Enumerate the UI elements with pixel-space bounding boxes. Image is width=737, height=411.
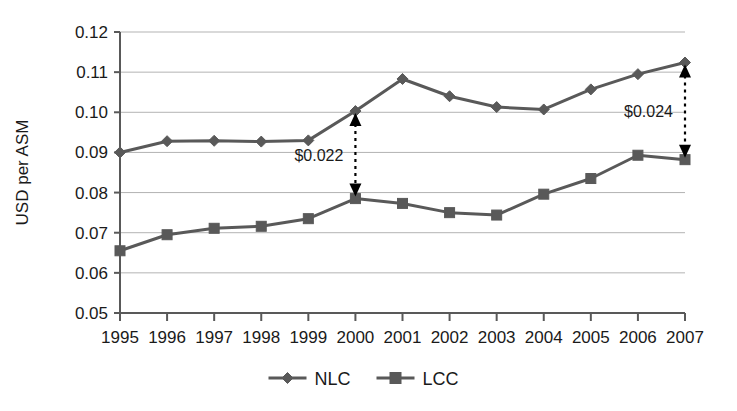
data-point-square-icon bbox=[633, 150, 643, 160]
annotation-label: $0.024 bbox=[624, 103, 673, 120]
legend-label: NLC bbox=[315, 369, 351, 389]
x-tick-label: 2006 bbox=[619, 328, 657, 347]
y-tick-label: 0.09 bbox=[75, 143, 108, 162]
data-point-diamond-icon bbox=[632, 69, 643, 80]
x-tick-label: 1996 bbox=[148, 328, 186, 347]
y-tick-label: 0.12 bbox=[75, 23, 108, 42]
x-tick-label: 2007 bbox=[666, 328, 704, 347]
annotation-label: $0.022 bbox=[294, 147, 343, 164]
data-point-square-icon bbox=[209, 223, 219, 233]
x-tick-label: 1998 bbox=[242, 328, 280, 347]
y-tick-label: 0.07 bbox=[75, 224, 108, 243]
legend-item-lcc[interactable]: LCC bbox=[377, 369, 459, 389]
data-point-diamond-icon bbox=[444, 91, 455, 102]
y-tick-label: 0.05 bbox=[75, 304, 108, 323]
data-point-diamond-icon bbox=[162, 136, 173, 147]
data-point-square-icon bbox=[115, 246, 125, 256]
y-tick-label: 0.08 bbox=[75, 184, 108, 203]
legend: NLCLCC bbox=[269, 369, 459, 389]
data-point-diamond-icon bbox=[209, 135, 220, 146]
x-tick-label: 2005 bbox=[572, 328, 610, 347]
data-point-square-icon bbox=[445, 208, 455, 218]
x-tick-label: 2004 bbox=[525, 328, 563, 347]
data-point-diamond-icon bbox=[491, 102, 502, 113]
data-point-diamond-icon bbox=[282, 373, 293, 384]
series-lcc bbox=[115, 150, 690, 256]
data-point-square-icon bbox=[539, 189, 549, 199]
data-point-diamond-icon bbox=[585, 84, 596, 95]
x-tick-label: 1999 bbox=[289, 328, 327, 347]
y-tick-label: 0.10 bbox=[75, 103, 108, 122]
data-point-square-icon bbox=[398, 198, 408, 208]
data-point-diamond-icon bbox=[538, 104, 549, 115]
annotation-arrow-up-icon bbox=[679, 65, 691, 78]
data-point-square-icon bbox=[492, 210, 502, 220]
annotations: $0.022$0.024 bbox=[294, 65, 691, 197]
y-tick-label: 0.11 bbox=[76, 63, 108, 82]
x-tick-label: 2003 bbox=[478, 328, 516, 347]
y-axis-title: USD per ASM bbox=[13, 120, 32, 226]
x-tick-label: 1997 bbox=[195, 328, 233, 347]
gridlines bbox=[120, 72, 685, 313]
x-axis-ticks: 1995199619971998199920002001200220032004… bbox=[101, 313, 704, 347]
data-point-diamond-icon bbox=[115, 147, 126, 158]
legend-item-nlc[interactable]: NLC bbox=[269, 369, 351, 389]
legend-label: LCC bbox=[423, 369, 459, 389]
y-axis-ticks: 0.050.060.070.080.090.100.110.12 bbox=[75, 23, 120, 323]
data-point-square-icon bbox=[162, 230, 172, 240]
x-tick-label: 2001 bbox=[384, 328, 422, 347]
y-tick-label: 0.06 bbox=[75, 264, 108, 283]
data-point-diamond-icon bbox=[256, 136, 267, 147]
line-chart: 0.050.060.070.080.090.100.110.1219951996… bbox=[0, 0, 737, 411]
data-point-square-icon bbox=[256, 221, 266, 231]
x-tick-label: 1995 bbox=[101, 328, 139, 347]
data-point-square-icon bbox=[303, 214, 313, 224]
data-point-square-icon bbox=[586, 174, 596, 184]
data-point-square-icon bbox=[390, 373, 401, 384]
x-tick-label: 2002 bbox=[431, 328, 469, 347]
chart-container: 0.050.060.070.080.090.100.110.1219951996… bbox=[0, 0, 737, 411]
x-tick-label: 2000 bbox=[337, 328, 375, 347]
